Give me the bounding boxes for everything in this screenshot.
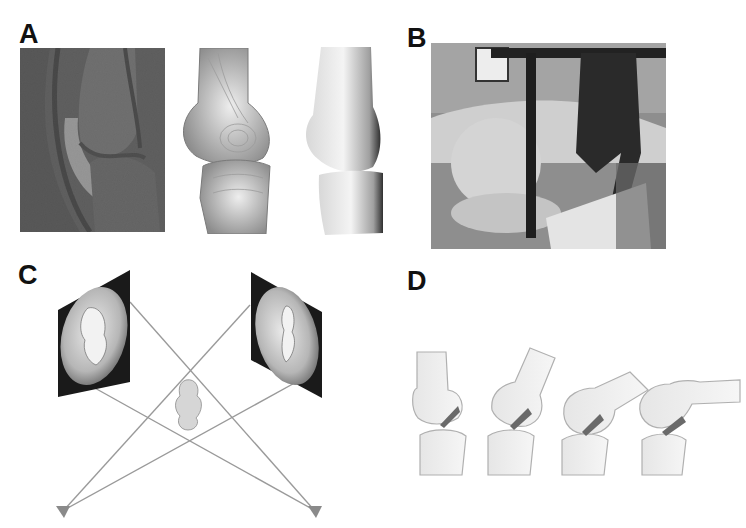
segmented-bone-surface <box>178 48 274 234</box>
smooth-bone-model <box>303 47 383 235</box>
experimental-setup-photo <box>431 43 666 249</box>
flexion-sequence <box>400 340 746 480</box>
mri-image <box>20 48 165 232</box>
panel-label-d: D <box>407 268 427 295</box>
virtual-fluoroscopy-diagram <box>0 250 380 528</box>
panel-label-b: B <box>407 25 427 52</box>
panel-label-a: A <box>19 21 39 48</box>
right-image-plane <box>245 272 329 398</box>
left-image-plane <box>50 270 138 397</box>
